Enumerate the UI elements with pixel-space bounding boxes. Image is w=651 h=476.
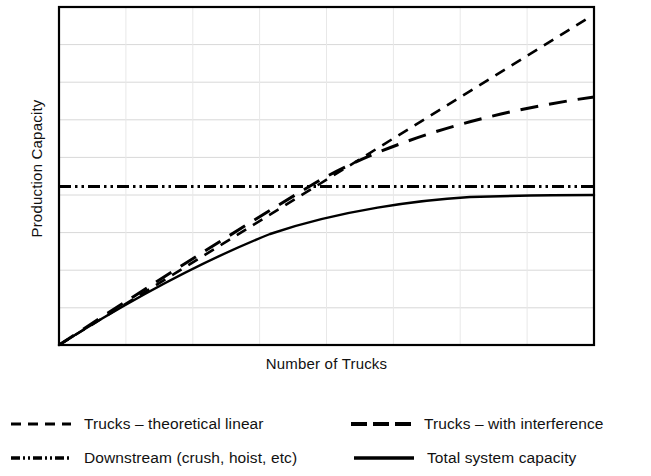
- dash-dot-dot-line-icon: [10, 451, 72, 465]
- dashed-short-line-icon: [10, 417, 72, 431]
- production-capacity-chart-figure: Production Capacity: [0, 0, 651, 476]
- legend-item-total-system-capacity: Total system capacity: [340, 442, 651, 474]
- legend-label: Trucks – with interference: [424, 415, 603, 433]
- chart-canvas: [0, 0, 651, 392]
- legend-row: Trucks – theoretical linear Trucks – wit…: [0, 408, 651, 440]
- chart-legend: Trucks – theoretical linear Trucks – wit…: [0, 404, 651, 476]
- x-axis-title: Number of Trucks: [58, 355, 595, 372]
- dashed-long-line-icon: [350, 417, 412, 431]
- legend-item-trucks-theoretical-linear: Trucks – theoretical linear: [0, 408, 336, 440]
- legend-item-trucks-with-interference: Trucks – with interference: [336, 408, 651, 440]
- legend-label: Downstream (crush, hoist, etc): [84, 449, 297, 467]
- legend-item-downstream-capacity: Downstream (crush, hoist, etc): [0, 442, 340, 474]
- legend-row: Downstream (crush, hoist, etc) Total sys…: [0, 442, 651, 474]
- legend-label: Total system capacity: [427, 449, 576, 467]
- legend-label: Trucks – theoretical linear: [84, 415, 264, 433]
- solid-line-icon: [353, 451, 415, 465]
- plot-area: Production Capacity: [0, 0, 651, 392]
